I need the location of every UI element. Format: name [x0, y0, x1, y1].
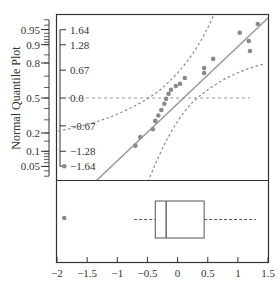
probability-tick-label: 0.9: [26, 39, 40, 51]
x-tick-label: 0.5: [201, 267, 215, 279]
x-tick-label: 0: [175, 267, 181, 279]
x-tick-label: −1.5: [77, 267, 97, 279]
data-point: [151, 127, 156, 132]
probability-tick-label: 0.1: [26, 145, 40, 157]
lower-confidence-band: [148, 64, 264, 182]
data-point: [178, 82, 183, 87]
outlier-point: [62, 216, 67, 221]
box: [155, 201, 204, 238]
data-point: [246, 39, 251, 44]
quantile-tick-label: 0.67: [70, 64, 90, 76]
plot-frame: [56, 15, 269, 263]
data-point: [162, 102, 167, 107]
data-point: [164, 97, 169, 102]
data-point: [255, 22, 260, 27]
probability-tick-label: 0.95: [21, 24, 41, 36]
quantile-tick-label: 1.28: [70, 39, 90, 51]
y-axis-label: Normal Quantile Plot: [9, 46, 23, 150]
quantile-axis: 1.641.280.670.0−0.67−1.28−1.64: [60, 24, 96, 172]
x-tick-label: −2: [51, 267, 63, 279]
fit-line: [96, 18, 268, 181]
data-point: [248, 49, 253, 54]
data-point: [237, 30, 242, 35]
probability-tick-label: 0.8: [26, 57, 40, 69]
normal-quantile-chart: 0.950.90.80.50.20.10.05 1.641.280.670.0−…: [0, 0, 280, 288]
probability-tick-label: 0.05: [21, 160, 41, 172]
data-point: [153, 119, 158, 124]
data-point: [133, 144, 138, 149]
data-point: [202, 71, 207, 76]
x-tick-label: 1.5: [261, 267, 275, 279]
box-plot-area: [62, 201, 256, 238]
data-point: [183, 76, 188, 81]
quantile-tick-label: 1.64: [70, 24, 90, 36]
data-point: [159, 108, 164, 113]
data-point: [166, 92, 171, 97]
data-point: [173, 84, 178, 89]
x-tick-label: −1: [111, 267, 123, 279]
probability-tick-label: 0.2: [26, 127, 40, 139]
quantile-tick-label: −1.28: [70, 145, 96, 157]
data-point: [169, 87, 174, 92]
x-tick-label: 1: [235, 267, 241, 279]
data-point: [156, 113, 161, 118]
probability-tick-label: 0.5: [26, 92, 40, 104]
quantile-tick-label: −1.64: [70, 160, 96, 172]
data-point: [138, 135, 143, 140]
x-axis: −2−1.5−1−0.500.511.5: [51, 257, 275, 279]
data-point: [202, 66, 207, 71]
probability-axis: 0.950.90.80.50.20.10.05: [21, 20, 49, 176]
data-point: [62, 164, 67, 169]
data-point: [211, 57, 216, 62]
x-tick-label: −0.5: [137, 267, 157, 279]
